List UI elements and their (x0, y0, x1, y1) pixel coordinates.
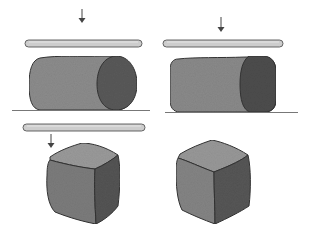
panel-top-right (163, 17, 298, 113)
down-arrow-icon (79, 9, 86, 23)
rolling-rod (25, 40, 142, 47)
panel-bottom-left (23, 124, 145, 224)
clay-cylinder (29, 56, 137, 110)
clay-flattened-block (170, 56, 276, 112)
down-arrow-icon (48, 134, 55, 148)
panel-top-left (12, 9, 150, 111)
clay-rounded-cube (47, 143, 120, 224)
rolling-rod (163, 40, 283, 47)
clay-rounded-cube (176, 140, 250, 224)
down-arrow-icon (218, 17, 225, 32)
rolling-rod (23, 124, 145, 131)
illustration (0, 0, 312, 235)
panel-bottom-right (176, 140, 250, 224)
